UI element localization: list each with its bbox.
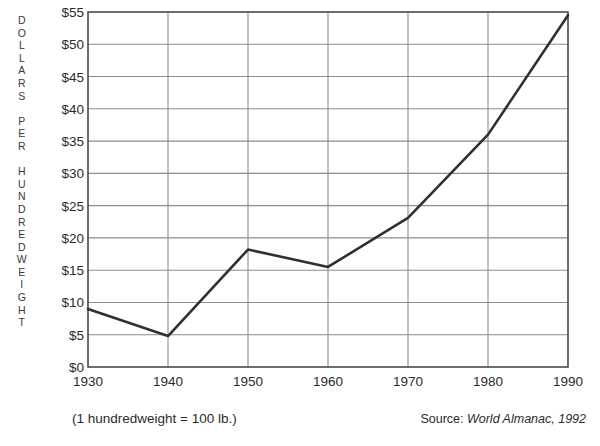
chart-figure: DOLLARS PER HUNDREDWEIGHT $0$5$10$15$20$…: [0, 0, 600, 446]
plot-area: [0, 0, 600, 446]
source-name: World Almanac, 1992: [467, 412, 586, 426]
source-prefix: Source:: [420, 412, 467, 426]
footnote-unit-note: (1 hundredweight = 100 lb.): [72, 411, 237, 426]
footnote-source: Source: World Almanac, 1992: [420, 412, 586, 426]
vertical-gridlines: [168, 12, 488, 367]
